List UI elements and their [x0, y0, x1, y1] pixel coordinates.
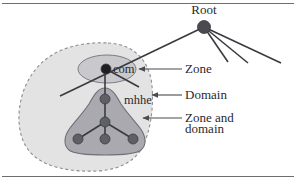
tree-node-leaf-left: [73, 134, 83, 144]
node-label-com: com: [113, 62, 135, 76]
callout-label-zone-and-domain-line2: domain: [185, 121, 224, 136]
callout-label-zone: Zone: [185, 61, 212, 76]
tree-node-leaf-center: [100, 134, 110, 144]
tree-node-root: [198, 21, 211, 34]
dns-zone-domain-diagram: Root com mhhe Zone Domain Zone and domai…: [0, 0, 298, 186]
tree-node-mid: [100, 117, 110, 127]
node-label-mhhe: mhhe: [124, 93, 152, 107]
tree-node-mhhe: [100, 94, 110, 104]
callout-label-domain: Domain: [185, 87, 227, 102]
node-label-root: Root: [191, 2, 217, 17]
figure-root: Root com mhhe Zone Domain Zone and domai…: [0, 0, 298, 186]
tree-node-com: [101, 64, 111, 74]
tree-node-leaf-right: [128, 134, 138, 144]
